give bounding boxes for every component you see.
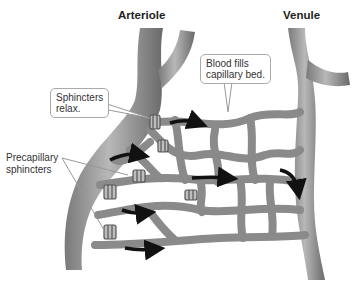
callout-line: Blood fills [206, 58, 265, 69]
callout-line: relax. [56, 103, 103, 114]
label-line: Precapillary [6, 152, 58, 164]
blood-fills-callout: Blood fills capillary bed. [200, 54, 271, 84]
label-line: sphincters [6, 164, 58, 176]
sphincter-left [104, 185, 116, 199]
callout-line: capillary bed. [206, 69, 265, 80]
sphincter-upper-mid [158, 140, 168, 152]
sphincter-bottom [104, 225, 116, 239]
capillary-bed-diagram: Arteriole Venule Sphincters relax. Blood… [0, 0, 353, 285]
sphincter-mid [133, 170, 145, 182]
flow-arrow-icon [192, 177, 228, 178]
vessel-illustration [0, 0, 353, 285]
venule-title: Venule [283, 9, 320, 21]
sphincters-relax-callout: Sphincters relax. [50, 88, 109, 118]
flow-arrow-icon [125, 248, 155, 250]
callout-line: Sphincters [56, 92, 103, 103]
sphincter-top [150, 115, 160, 129]
arteriole-title: Arteriole [118, 9, 165, 21]
precapillary-sphincters-label: Precapillary sphincters [6, 152, 58, 176]
sphincter-center [185, 190, 197, 200]
